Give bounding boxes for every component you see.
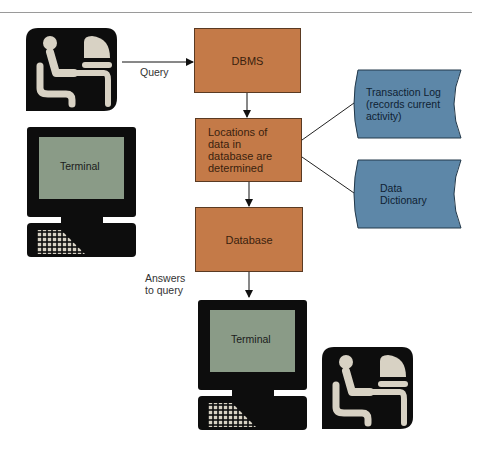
terminal-icon — [198, 300, 307, 430]
locations-label-line: Locations of — [208, 126, 267, 138]
locations-label-line: determined — [208, 162, 263, 174]
terminal-bottom-label: Terminal — [231, 333, 271, 345]
data-dictionary-label-line: Dictionary — [380, 194, 427, 206]
edge-label-answers: Answers to query — [145, 272, 185, 296]
edge-locations-to-data-dictionary — [302, 157, 354, 193]
person-at-computer-icon — [322, 347, 413, 429]
transaction-log-label-line: (records current — [366, 98, 441, 110]
data-dictionary-label-line: Data — [380, 182, 427, 194]
answers-label-line: Answers — [145, 272, 185, 284]
terminal-icon — [27, 127, 136, 257]
answers-label-line: to query — [145, 284, 185, 296]
locations-node: Locations of data in database are determ… — [195, 118, 302, 182]
database-label: Database — [225, 234, 272, 246]
edge-label-query: Query — [140, 66, 169, 78]
locations-label-line: database are — [208, 150, 272, 162]
terminal-top-label: Terminal — [60, 160, 100, 172]
person-at-computer-icon — [26, 28, 117, 111]
transaction-log-node: Transaction Log (records current activit… — [366, 86, 441, 122]
data-dictionary-node: Data Dictionary — [380, 182, 427, 206]
database-node: Database — [195, 207, 303, 272]
edge-locations-to-transaction-log — [302, 103, 354, 140]
transaction-log-label-line: activity) — [366, 110, 441, 122]
locations-label-line: data in — [208, 138, 241, 150]
dbms-node: DBMS — [194, 28, 301, 93]
transaction-log-label-line: Transaction Log — [366, 86, 441, 98]
dbms-label: DBMS — [232, 55, 264, 67]
